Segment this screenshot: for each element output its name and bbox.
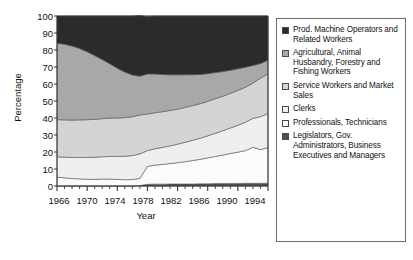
legend-label: Clerks [293,104,316,114]
legend-item-agricultural[interactable]: Agricultural, Animal Husbandry, Forestry… [282,48,401,77]
legend-label: Agricultural, Animal Husbandry, Forestry… [293,48,401,77]
legend-swatch-icon [282,50,289,57]
legend-swatch-icon [282,106,289,113]
legend-swatch-icon [282,120,289,127]
legend-label: Prod. Machine Operators and Related Work… [293,25,401,44]
legend-item-clerks[interactable]: Clerks [282,104,401,114]
x-tick-label-1994: 1994 [238,196,272,206]
legend-label: Professionals, Technicians [293,118,387,128]
legend-swatch-icon [282,27,289,34]
stacked-area-chart-figure: Percentage 100 90 80 70 60 50 40 30 20 1… [0,0,413,260]
legend-item-service-workers[interactable]: Service Workers and Market Sales [282,81,401,100]
legend-item-professionals[interactable]: Professionals, Technicians [282,118,401,128]
legend-item-prod-machine-operators[interactable]: Prod. Machine Operators and Related Work… [282,25,401,44]
legend-label: Legislators, Gov. Administrators, Busine… [293,131,401,160]
legend-swatch-icon [282,133,289,140]
chart-legend: Prod. Machine Operators and Related Work… [276,18,406,242]
legend-swatch-icon [282,83,289,90]
legend-label: Service Workers and Market Sales [293,81,401,100]
legend-item-legislators[interactable]: Legislators, Gov. Administrators, Busine… [282,131,401,160]
x-axis-label: Year [46,210,246,221]
